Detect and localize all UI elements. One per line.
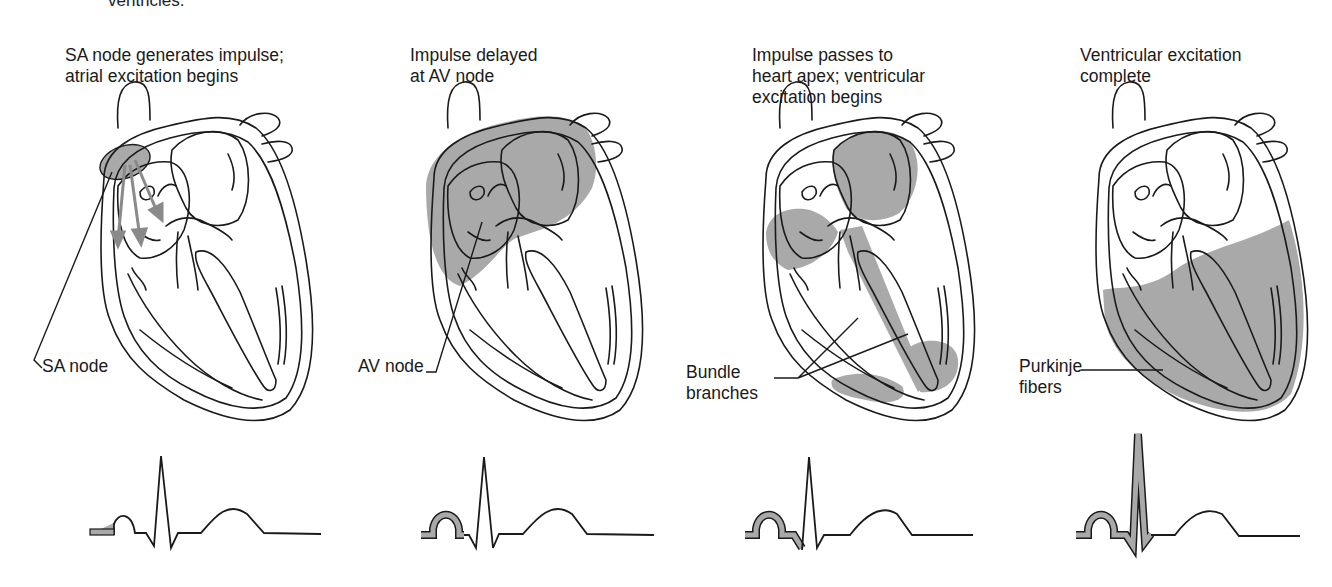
heart-diagram: [662, 0, 995, 587]
heart-diagram: [0, 0, 333, 587]
ecg-trace: [745, 457, 973, 550]
ecg-trace: [421, 457, 654, 548]
label-av-node: AV node: [358, 356, 424, 377]
panel-sa-node: SA node generates impulse; atrial excita…: [0, 0, 333, 587]
ecg-trace: [90, 456, 321, 548]
panel-av-node: Impulse delayed at AV node AV node: [330, 0, 663, 587]
label-purkinje-fibers: Purkinje fibers: [1019, 356, 1082, 398]
ecg-trace: [1076, 434, 1300, 546]
heart-diagram: [330, 0, 663, 587]
label-sa-node: SA node: [42, 356, 108, 377]
panel-bundle-branches: Impulse passes to heart apex; ventricula…: [662, 0, 995, 587]
leader-line: [34, 172, 112, 368]
panel-purkinje-fibers: Ventricular excitation complete Purkinje…: [995, 0, 1328, 587]
label-bundle-branches: Bundle branches: [686, 362, 758, 404]
heart-diagram: [995, 0, 1328, 587]
